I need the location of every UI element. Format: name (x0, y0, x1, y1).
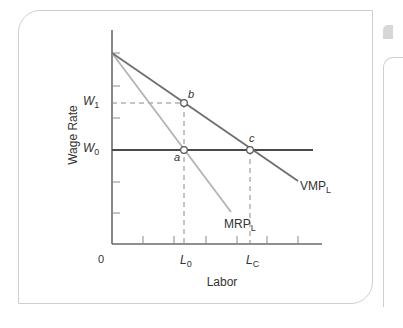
side-panel (383, 57, 403, 307)
curves (112, 53, 313, 212)
y-tick-label-W0: W0 (83, 141, 99, 157)
equilibrium-points: abc (174, 88, 255, 163)
y-axis-label: Wage Rate (66, 105, 80, 165)
x-axis-label: Labor (207, 275, 238, 289)
y-tick-labels: W1W0 (83, 94, 99, 157)
x-tick-label-LC: LC (246, 253, 260, 269)
point-c-label: c (249, 132, 255, 144)
curve-labels: VMPLMRPL (224, 179, 331, 233)
y-axis-ticks (112, 53, 120, 213)
x-tick-label-L0: L0 (180, 253, 192, 269)
y-tick-label-W1: W1 (83, 94, 99, 110)
axes (112, 30, 322, 244)
point-c-marker (247, 147, 254, 154)
point-a-label: a (174, 151, 180, 163)
curve-vmp-l (112, 53, 298, 181)
mrp-label: MRPL (224, 217, 256, 233)
vmp-label: VMPL (300, 179, 331, 195)
point-b-label: b (188, 88, 194, 100)
point-a-marker (181, 147, 188, 154)
origin-label: 0 (98, 253, 104, 265)
curve-mrp-l (112, 53, 231, 212)
x-axis-ticks (143, 236, 298, 244)
point-b-marker (181, 100, 188, 107)
x-tick-labels: L0LC (180, 253, 260, 269)
